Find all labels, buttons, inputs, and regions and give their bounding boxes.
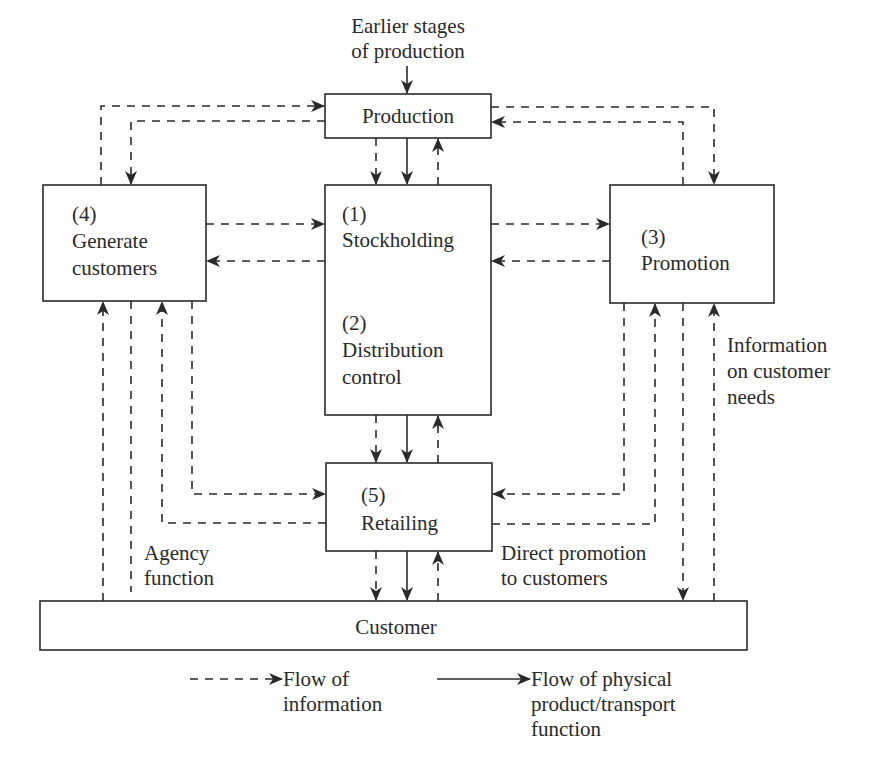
- generate-customers-number: (4): [72, 202, 97, 226]
- direct-promotion-line1: Direct promotion: [501, 541, 647, 565]
- customer-label: Customer: [355, 615, 437, 639]
- agency-line1: Agency: [144, 541, 210, 565]
- promotion-box: [610, 185, 774, 303]
- edge-retail-to-generate: [162, 302, 326, 523]
- production-label: Production: [362, 104, 455, 128]
- info-needs-line1: Information: [727, 333, 828, 357]
- legend-physical-line2: product/transport: [531, 692, 676, 716]
- direct-promotion-line2: to customers: [501, 566, 608, 590]
- earlier-stages-line2: of production: [351, 39, 465, 63]
- retailing-box: [326, 463, 492, 551]
- distribution-flow-diagram: Earlier stages of production Production …: [0, 0, 880, 773]
- earlier-stages-line1: Earlier stages: [351, 14, 465, 38]
- distribution-line2: control: [342, 365, 402, 389]
- agency-line2: function: [144, 566, 214, 590]
- edge-generate-to-production: [101, 106, 324, 185]
- generate-customers-line2: customers: [72, 256, 157, 280]
- promotion-label: Promotion: [641, 251, 730, 275]
- edge-production-to-generate: [131, 121, 325, 184]
- retailing-label: Retailing: [361, 511, 438, 535]
- distribution-number: (2): [342, 311, 367, 335]
- distribution-line1: Distribution: [342, 338, 444, 362]
- edge-generate-to-retail: [192, 301, 325, 494]
- generate-customers-line1: Generate: [72, 229, 148, 253]
- legend-info-line1: Flow of: [283, 667, 349, 691]
- edge-promotion-to-retail: [493, 303, 624, 494]
- legend-physical-line3: function: [531, 717, 601, 741]
- retailing-number: (5): [361, 483, 386, 507]
- edge-production-to-promotion: [491, 107, 714, 184]
- info-needs-line3: needs: [727, 385, 775, 409]
- legend-info-line2: information: [283, 692, 383, 716]
- legend: Flow of information Flow of physical pro…: [190, 667, 676, 741]
- promotion-number: (3): [641, 225, 666, 249]
- stockholding-number: (1): [342, 202, 367, 226]
- edge-promotion-to-production: [492, 122, 683, 185]
- info-needs-line2: on customer: [727, 359, 830, 383]
- stockholding-label: Stockholding: [342, 228, 455, 252]
- edge-retail-to-promotion: [492, 304, 655, 524]
- legend-physical-line1: Flow of physical: [531, 667, 672, 691]
